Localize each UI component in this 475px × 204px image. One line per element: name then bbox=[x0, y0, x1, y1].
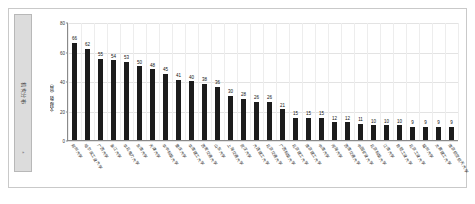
bar[interactable]: 26 bbox=[254, 102, 260, 140]
bar-rect bbox=[332, 122, 338, 140]
bar-value-label: 66 bbox=[72, 37, 77, 42]
bar[interactable]: 15 bbox=[306, 118, 312, 140]
bar[interactable]: 45 bbox=[163, 74, 169, 140]
bar-value-label: 54 bbox=[111, 55, 116, 60]
bar[interactable]: 53 bbox=[124, 62, 130, 140]
side-tab-chevron-icon: » bbox=[22, 150, 24, 155]
bar-rect bbox=[345, 122, 351, 140]
bar-value-label: 38 bbox=[202, 78, 207, 83]
bar[interactable]: 26 bbox=[267, 102, 273, 140]
bar[interactable]: 10 bbox=[397, 125, 403, 140]
bar[interactable]: 48 bbox=[150, 69, 156, 140]
bar-value-label: 62 bbox=[85, 43, 90, 48]
bar-rect bbox=[449, 127, 455, 140]
bar-value-label: 9 bbox=[411, 121, 414, 126]
bar[interactable]: 38 bbox=[202, 84, 208, 140]
x-gridline bbox=[146, 23, 147, 140]
y-axis-title: 文献数（篇） bbox=[50, 71, 58, 121]
bar-rect bbox=[98, 59, 104, 140]
x-tick-label: 中南大学 bbox=[317, 143, 329, 159]
x-tick-label: 南京航空航天大学 bbox=[447, 143, 468, 174]
bar[interactable]: 28 bbox=[241, 99, 247, 140]
bar[interactable]: 62 bbox=[85, 49, 91, 140]
bar-rect bbox=[384, 125, 390, 140]
x-gridline bbox=[393, 23, 394, 140]
bar[interactable]: 9 bbox=[449, 127, 455, 140]
x-tick-label: 山东大学 bbox=[213, 143, 225, 159]
bar[interactable]: 15 bbox=[319, 118, 325, 140]
y-tick-label: 0 bbox=[62, 139, 65, 144]
bar[interactable]: 30 bbox=[228, 96, 234, 140]
bar-value-label: 21 bbox=[280, 104, 285, 109]
bar[interactable]: 10 bbox=[371, 125, 377, 140]
x-gridline bbox=[289, 23, 290, 140]
x-gridline bbox=[354, 23, 355, 140]
bar[interactable]: 40 bbox=[189, 81, 195, 140]
bar-rect bbox=[397, 125, 403, 140]
bar-rect bbox=[189, 81, 195, 140]
x-tick-label: 河海大学 bbox=[330, 143, 342, 159]
x-gridline bbox=[159, 23, 160, 140]
bar[interactable]: 55 bbox=[98, 59, 104, 140]
x-tick-label: 武汉大学 bbox=[239, 143, 251, 159]
bar[interactable]: 10 bbox=[384, 125, 390, 140]
bar[interactable]: 66 bbox=[72, 43, 78, 140]
bar-value-label: 28 bbox=[241, 93, 246, 98]
bar-rect bbox=[267, 102, 273, 140]
plot-area: 0204060806662555453504845414038363028262… bbox=[67, 23, 458, 141]
bar[interactable]: 50 bbox=[137, 66, 143, 140]
x-gridline bbox=[68, 23, 69, 140]
bar-value-label: 55 bbox=[98, 53, 103, 58]
bar[interactable]: 12 bbox=[332, 122, 338, 140]
side-tab-label: 机构分布 bbox=[21, 82, 26, 104]
bar-value-label: 15 bbox=[293, 112, 298, 117]
bar-value-label: 26 bbox=[254, 96, 259, 101]
x-gridline bbox=[276, 23, 277, 140]
y-tick-label: 40 bbox=[60, 80, 65, 85]
bar-value-label: 40 bbox=[189, 76, 194, 81]
bar[interactable]: 9 bbox=[423, 127, 429, 140]
bar-value-label: 26 bbox=[267, 96, 272, 101]
bar-rect bbox=[436, 127, 442, 140]
bar[interactable]: 21 bbox=[280, 109, 286, 140]
bar-value-label: 15 bbox=[306, 112, 311, 117]
chart-panel: 文献数（篇） 020406080666255545350484541403836… bbox=[8, 8, 467, 188]
bar[interactable]: 12 bbox=[345, 122, 351, 140]
bar[interactable]: 11 bbox=[358, 124, 364, 140]
x-tick-label: 江南大学 bbox=[382, 143, 394, 159]
bar[interactable]: 9 bbox=[436, 127, 442, 140]
bar-rect bbox=[280, 109, 286, 140]
bar-value-label: 9 bbox=[437, 121, 440, 126]
bar-rect bbox=[371, 125, 377, 140]
bar-value-label: 10 bbox=[397, 120, 402, 125]
y-tick-label: 20 bbox=[60, 109, 65, 114]
x-gridline bbox=[198, 23, 199, 140]
bar-rect bbox=[150, 69, 156, 140]
x-tick-label: 福州大学 bbox=[421, 143, 433, 159]
bar-rect bbox=[124, 62, 130, 140]
bar-rect bbox=[254, 102, 260, 140]
bar[interactable]: 41 bbox=[176, 80, 182, 140]
y-tick-label: 80 bbox=[60, 21, 65, 26]
bar[interactable]: 9 bbox=[410, 127, 416, 140]
bar[interactable]: 36 bbox=[215, 87, 221, 140]
x-gridline bbox=[367, 23, 368, 140]
x-gridline bbox=[458, 23, 459, 140]
bar-rect bbox=[72, 43, 78, 140]
bar-rect bbox=[293, 118, 299, 140]
x-gridline bbox=[224, 23, 225, 140]
bar-rect bbox=[215, 87, 221, 140]
bar-rect bbox=[410, 127, 416, 140]
bar-rect bbox=[423, 127, 429, 140]
bar-rect bbox=[319, 118, 325, 140]
x-gridline bbox=[380, 23, 381, 140]
x-gridline bbox=[445, 23, 446, 140]
bar-value-label: 9 bbox=[424, 121, 427, 126]
bar-value-label: 30 bbox=[228, 90, 233, 95]
bar-rect bbox=[228, 96, 234, 140]
x-gridline bbox=[120, 23, 121, 140]
bar[interactable]: 54 bbox=[111, 60, 117, 140]
side-tab[interactable]: 机构分布 » bbox=[14, 14, 32, 172]
bar[interactable]: 15 bbox=[293, 118, 299, 140]
bar-rect bbox=[306, 118, 312, 140]
